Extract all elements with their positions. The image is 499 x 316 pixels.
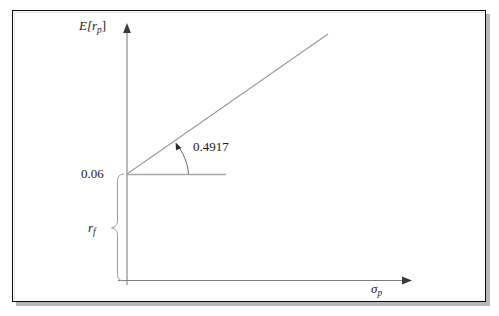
y-axis-label: E[rp] [79, 19, 106, 35]
figure-container: E[rp] σp 0.06 rf 0.4917 [0, 0, 499, 316]
angle-label: 0.4917 [193, 140, 229, 153]
risk-free-rate-brace [112, 174, 125, 281]
y-axis [123, 23, 131, 285]
intercept-label: 0.06 [81, 167, 104, 180]
x-axis [118, 277, 412, 285]
risk-free-rate-label-subscript: f [93, 227, 96, 237]
y-axis-label-main: E[r [79, 18, 97, 33]
risk-free-rate-label: rf [88, 221, 96, 237]
x-axis-label: σp [371, 282, 382, 298]
x-axis-label-subscript: p [377, 288, 382, 298]
diagram-canvas [0, 0, 499, 316]
y-axis-label-bracket: ] [102, 18, 106, 33]
angle-arc [176, 143, 189, 174]
